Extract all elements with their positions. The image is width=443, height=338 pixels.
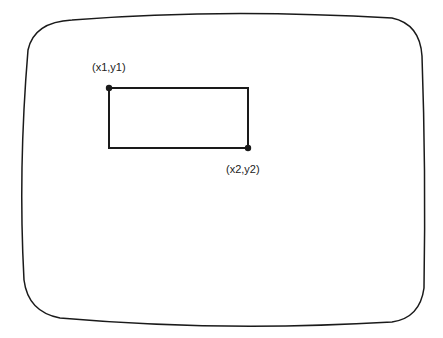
diagram-canvas: (x1,y1) (x2,y2) <box>0 0 443 338</box>
corner2-label: (x2,y2) <box>226 163 260 175</box>
rectangle-shape <box>109 88 248 148</box>
corner2-point <box>245 145 251 151</box>
corner1-label: (x1,y1) <box>92 61 126 73</box>
screen-outline <box>22 13 425 326</box>
corner1-point <box>106 85 112 91</box>
